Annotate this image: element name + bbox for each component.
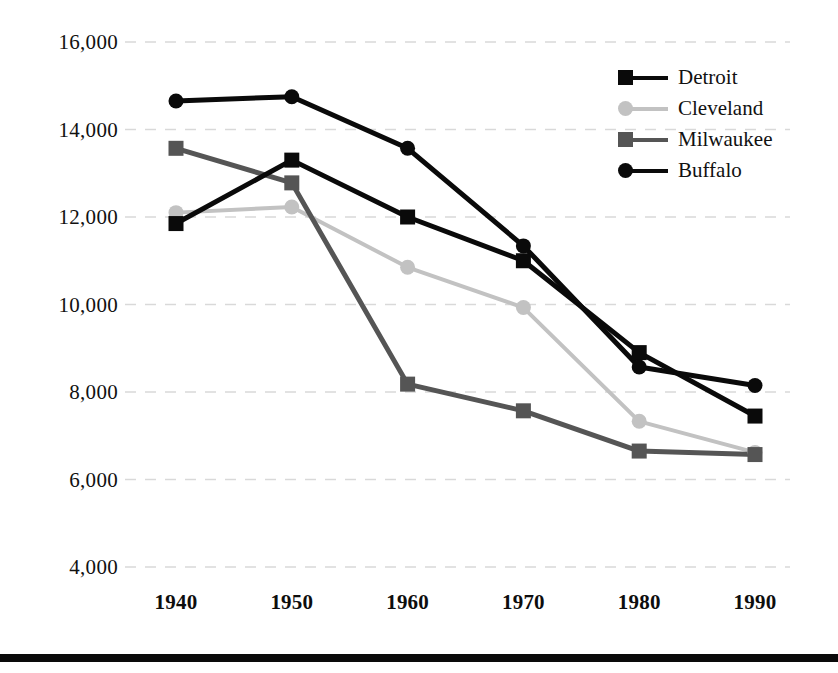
data-point-milwaukee-1960 <box>400 377 415 392</box>
data-point-detroit-1960 <box>400 210 415 225</box>
y-tick-label: 6,000 <box>18 467 118 492</box>
y-tick-label: 14,000 <box>18 117 118 142</box>
legend-label: Buffalo <box>678 160 742 181</box>
x-tick-label-1950: 1950 <box>270 590 313 615</box>
series-line-cleveland <box>176 207 755 452</box>
data-point-milwaukee-1980 <box>632 444 647 459</box>
legend-item-buffalo[interactable]: Buffalo <box>618 155 833 186</box>
data-point-detroit-1980 <box>632 345 647 360</box>
legend-marker-square-icon <box>618 132 633 147</box>
y-tick-label: 12,000 <box>18 205 118 230</box>
legend-marker-square-icon <box>618 70 633 85</box>
data-point-cleveland-1950 <box>284 199 299 214</box>
y-tick-label: 10,000 <box>18 292 118 317</box>
legend-label: Milwaukee <box>678 129 772 150</box>
data-point-milwaukee-1950 <box>284 175 299 190</box>
data-point-buffalo-1980 <box>632 360 647 375</box>
legend-item-milwaukee[interactable]: Milwaukee <box>618 124 833 155</box>
data-point-detroit-1950 <box>284 153 299 168</box>
legend-item-detroit[interactable]: Detroit <box>618 62 833 93</box>
x-axis: 194019501960197019801990 <box>0 590 838 622</box>
legend: DetroitClevelandMilwaukeeBuffalo <box>618 62 833 186</box>
data-point-cleveland-1970 <box>516 300 531 315</box>
data-point-milwaukee-1940 <box>169 141 184 156</box>
bottom-divider <box>0 654 838 662</box>
legend-swatch-detroit <box>618 68 670 88</box>
data-point-cleveland-1960 <box>400 260 415 275</box>
legend-swatch-milwaukee <box>618 130 670 150</box>
data-point-cleveland-1980 <box>632 414 647 429</box>
legend-swatch-buffalo <box>618 161 670 181</box>
legend-label: Detroit <box>678 67 737 88</box>
data-point-detroit-1970 <box>516 253 531 268</box>
y-tick-label: 8,000 <box>18 380 118 405</box>
legend-label: Cleveland <box>678 98 763 119</box>
x-tick-label-1960: 1960 <box>386 590 429 615</box>
data-point-buffalo-1990 <box>748 378 763 393</box>
x-tick-label-1990: 1990 <box>734 590 777 615</box>
data-point-buffalo-1960 <box>400 141 415 156</box>
data-point-detroit-1940 <box>169 216 184 231</box>
data-point-buffalo-1940 <box>169 94 184 109</box>
line-chart: 16,00014,00012,00010,0008,0006,0004,000 … <box>0 0 838 673</box>
data-point-buffalo-1950 <box>284 89 299 104</box>
data-point-buffalo-1970 <box>516 238 531 253</box>
x-tick-label-1980: 1980 <box>618 590 661 615</box>
x-tick-label-1940: 1940 <box>155 590 198 615</box>
legend-marker-circle-icon <box>618 163 633 178</box>
y-axis: 16,00014,00012,00010,0008,0006,0004,000 <box>18 0 118 673</box>
x-tick-label-1970: 1970 <box>502 590 545 615</box>
data-point-milwaukee-1990 <box>748 447 763 462</box>
legend-marker-circle-icon <box>618 101 633 116</box>
y-tick-label: 16,000 <box>18 30 118 55</box>
y-tick-label: 4,000 <box>18 555 118 580</box>
legend-item-cleveland[interactable]: Cleveland <box>618 93 833 124</box>
data-point-detroit-1990 <box>748 409 763 424</box>
legend-swatch-cleveland <box>618 99 670 119</box>
data-point-milwaukee-1970 <box>516 403 531 418</box>
